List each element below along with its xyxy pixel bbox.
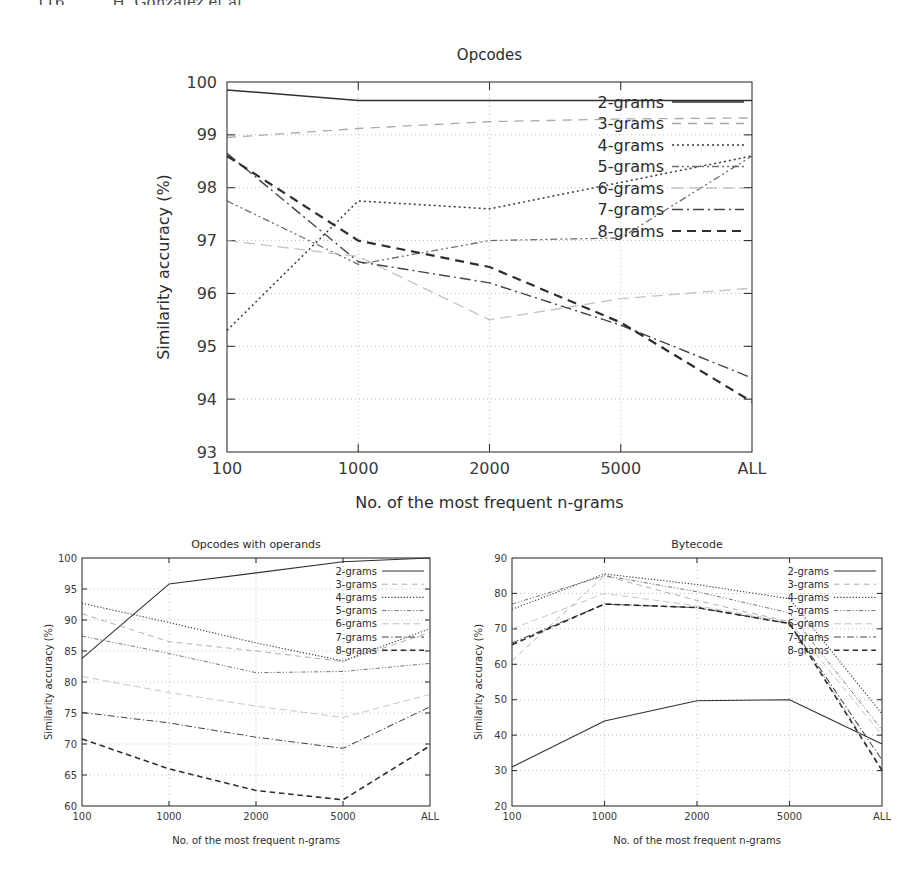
y-tick-label: 80	[64, 677, 77, 688]
y-tick-label: 90	[494, 553, 507, 564]
y-tick-label: 70	[64, 739, 77, 750]
legend-item-5-grams: 5-grams	[335, 605, 424, 616]
legend-label: 8-grams	[787, 645, 829, 656]
legend-item-8-grams: 8-grams	[787, 645, 876, 656]
legend-item-5-grams: 5-grams	[787, 605, 876, 616]
y-tick-label: 80	[494, 588, 507, 599]
series-line-7-grams	[227, 153, 752, 378]
legend-item-7-grams: 7-grams	[787, 632, 876, 643]
legend-item-8-grams: 8-grams	[335, 645, 424, 656]
legend-item-6-grams: 6-grams	[787, 618, 876, 629]
y-axis-title: Similarity accuracy (%)	[154, 174, 173, 360]
legend-label: 5-grams	[335, 605, 377, 616]
x-tick-label: 100	[212, 459, 243, 478]
chart-title-bytecode: Bytecode	[671, 538, 723, 551]
y-tick-label: 60	[494, 659, 507, 670]
legend-item-7-grams: 7-grams	[335, 632, 424, 643]
series-line-2-grams	[82, 558, 430, 658]
legend-label: 7-grams	[787, 632, 829, 643]
chart-title-opcodes-with-operands: Opcodes with operands	[191, 538, 321, 551]
legend-item-2-grams: 2-grams	[335, 566, 424, 577]
series-line-2-grams	[512, 700, 882, 767]
legend-label: 4-grams	[598, 136, 664, 155]
x-tick-label: 1000	[592, 811, 617, 822]
x-tick-label: ALL	[421, 811, 439, 822]
legend-label: 3-grams	[598, 114, 664, 133]
legend-label: 6-grams	[598, 179, 664, 198]
legend-item-4-grams: 4-grams	[787, 592, 876, 603]
x-tick-label: 2000	[243, 811, 268, 822]
y-tick-label: 75	[64, 708, 77, 719]
y-tick-label: 100	[186, 73, 217, 92]
y-tick-label: 50	[494, 694, 507, 705]
legend-label: 3-grams	[335, 579, 377, 590]
series-line-4-grams	[82, 603, 430, 661]
x-axis-title: No. of the most frequent n-grams	[172, 835, 340, 846]
x-tick-label: ALL	[738, 459, 767, 478]
y-tick-label: 95	[64, 584, 77, 595]
y-tick-label: 70	[494, 623, 507, 634]
y-tick-label: 90	[64, 615, 77, 626]
y-tick-label: 99	[197, 125, 217, 144]
y-tick-label: 98	[197, 178, 217, 197]
legend-label: 2-grams	[335, 566, 377, 577]
y-tick-label: 100	[58, 553, 77, 564]
x-tick-label: 5000	[330, 811, 355, 822]
legend-item-3-grams: 3-grams	[598, 114, 744, 133]
y-tick-label: 60	[64, 801, 77, 812]
y-tick-label: 97	[197, 231, 217, 250]
legend-label: 7-grams	[335, 632, 377, 643]
x-tick-label: 5000	[777, 811, 802, 822]
x-tick-label: 5000	[600, 459, 641, 478]
y-tick-label: 95	[197, 337, 217, 356]
legend-label: 6-grams	[335, 618, 377, 629]
x-tick-label: 1000	[338, 459, 379, 478]
legend-opcodes-with-operands: 2-grams3-grams4-grams5-grams6-grams7-gra…	[335, 566, 424, 656]
chart-title-opcodes: Opcodes	[457, 46, 523, 64]
y-tick-label: 65	[64, 770, 77, 781]
chart-bytecode: Bytecode2030405060708090100100020005000A…	[473, 538, 891, 846]
x-axis-title: No. of the most frequent n-grams	[355, 493, 623, 512]
legend-item-8-grams: 8-grams	[598, 222, 744, 241]
y-tick-label: 85	[64, 646, 77, 657]
legend-opcodes: 2-grams3-grams4-grams5-grams6-grams7-gra…	[598, 93, 744, 241]
legend-label: 2-grams	[787, 566, 829, 577]
x-tick-label: 2000	[684, 811, 709, 822]
x-tick-label: 1000	[156, 811, 181, 822]
y-tick-label: 30	[494, 765, 507, 776]
y-tick-label: 96	[197, 284, 217, 303]
legend-label: 4-grams	[335, 592, 377, 603]
legend-label: 2-grams	[598, 93, 664, 112]
y-tick-label: 40	[494, 730, 507, 741]
x-tick-label: ALL	[873, 811, 891, 822]
x-tick-label: 100	[502, 811, 521, 822]
legend-item-5-grams: 5-grams	[598, 157, 744, 176]
legend-label: 5-grams	[598, 157, 664, 176]
legend-item-4-grams: 4-grams	[598, 136, 744, 155]
legend-label: 6-grams	[787, 618, 829, 629]
legend-item-7-grams: 7-grams	[598, 200, 744, 219]
legend-bytecode: 2-grams3-grams4-grams5-grams6-grams7-gra…	[787, 566, 876, 656]
figure-container: Opcodes93949596979899100100100020005000A…	[0, 0, 916, 889]
y-tick-label: 20	[494, 801, 507, 812]
y-axis-title: Similarity accuracy (%)	[43, 624, 54, 740]
legend-label: 8-grams	[335, 645, 377, 656]
y-axis-title: Similarity accuracy (%)	[473, 624, 484, 740]
chart-opcodes-with-operands: Opcodes with operands6065707580859095100…	[43, 538, 439, 846]
legend-item-2-grams: 2-grams	[787, 566, 876, 577]
legend-label: 5-grams	[787, 605, 829, 616]
legend-item-4-grams: 4-grams	[335, 592, 424, 603]
x-tick-label: 2000	[469, 459, 510, 478]
legend-label: 7-grams	[598, 200, 664, 219]
legend-label: 8-grams	[598, 222, 664, 241]
legend-item-3-grams: 3-grams	[787, 579, 876, 590]
x-tick-label: 100	[72, 811, 91, 822]
legend-item-3-grams: 3-grams	[335, 579, 424, 590]
x-axis-title: No. of the most frequent n-grams	[613, 835, 781, 846]
y-tick-label: 94	[197, 390, 217, 409]
legend-item-6-grams: 6-grams	[598, 179, 744, 198]
series-line-8-grams	[82, 739, 430, 800]
legend-label: 4-grams	[787, 592, 829, 603]
charts-svg: Opcodes93949596979899100100100020005000A…	[0, 0, 916, 889]
legend-label: 3-grams	[787, 579, 829, 590]
